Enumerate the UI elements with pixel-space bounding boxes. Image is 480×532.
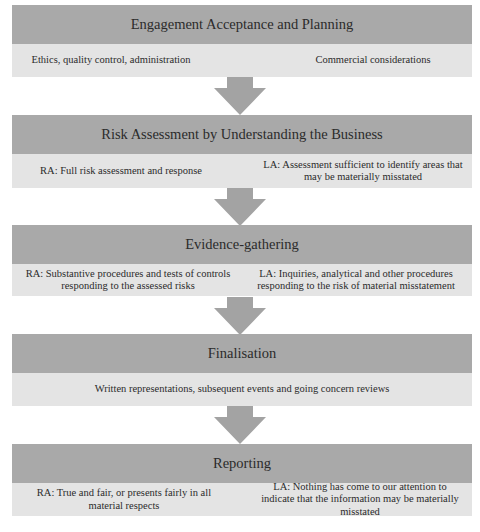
down-arrow-icon: [214, 77, 266, 115]
stage-left-detail: RA: True and fair, or presents fairly in…: [12, 487, 242, 512]
stage-details: RA: Substantive procedures and tests of …: [12, 264, 472, 296]
stage-full-detail: Written representations, subsequent even…: [12, 383, 472, 396]
stage-right-detail: LA: Nothing has come to our attention to…: [242, 481, 472, 519]
down-arrow-icon: [214, 188, 266, 226]
stage-left-detail: Ethics, quality control, administration: [12, 54, 242, 67]
stage-title: Evidence-gathering: [12, 225, 472, 264]
stage-right-detail: LA: Assessment sufficient to identify ar…: [242, 159, 472, 184]
down-arrow-icon: [214, 406, 266, 444]
stage-evidence-gathering: Evidence-gathering RA: Substantive proce…: [12, 225, 472, 296]
stage-left-detail: RA: Full risk assessment and response: [12, 165, 242, 178]
stage-details: Written representations, subsequent even…: [12, 373, 472, 406]
stage-right-detail: Commercial considerations: [242, 54, 472, 67]
stage-details: Ethics, quality control, administration …: [12, 44, 472, 77]
stage-risk-assessment: Risk Assessment by Understanding the Bus…: [12, 115, 472, 188]
stage-title: Reporting: [12, 444, 472, 483]
stage-right-detail: LA: Inquiries, analytical and other proc…: [242, 268, 472, 293]
stage-details: RA: True and fair, or presents fairly in…: [12, 483, 472, 516]
stage-finalisation: Finalisation Written representations, su…: [12, 334, 472, 406]
stage-title: Engagement Acceptance and Planning: [12, 5, 472, 44]
stage-details: RA: Full risk assessment and response LA…: [12, 154, 472, 188]
stage-title: Risk Assessment by Understanding the Bus…: [12, 115, 472, 154]
stage-title: Finalisation: [12, 334, 472, 373]
stage-left-detail: RA: Substantive procedures and tests of …: [12, 268, 242, 293]
down-arrow-icon: [214, 297, 266, 335]
stage-engagement-acceptance: Engagement Acceptance and Planning Ethic…: [12, 5, 472, 77]
stage-reporting: Reporting RA: True and fair, or presents…: [12, 444, 472, 516]
